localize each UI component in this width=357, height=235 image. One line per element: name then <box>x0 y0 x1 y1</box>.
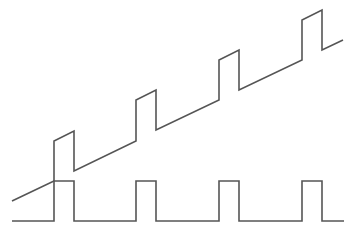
pulse-train-signal <box>12 181 344 221</box>
sawtooth-pulse-signal <box>12 10 343 201</box>
waveform-diagram <box>0 0 357 235</box>
